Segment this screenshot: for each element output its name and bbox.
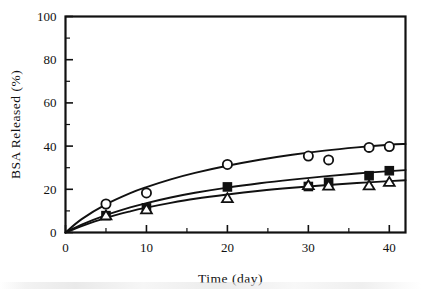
y-tick-label: 0 [50, 225, 57, 240]
chart-figure: 010203040020406080100Time (day)BSA Relea… [0, 0, 421, 289]
marker-open-circle [101, 199, 110, 208]
marker-open-circle [364, 143, 373, 152]
y-tick-label: 80 [44, 52, 57, 67]
x-tick-label: 20 [221, 240, 234, 255]
x-tick-label: 10 [140, 240, 153, 255]
y-tick-label: 100 [37, 9, 57, 24]
y-tick-label: 20 [44, 182, 57, 197]
x-tick-label: 30 [302, 240, 315, 255]
marker-open-circle [304, 151, 313, 160]
fit-curve-filled-square [66, 170, 406, 232]
y-tick-label: 60 [44, 95, 57, 110]
fit-curve-open-triangle [66, 180, 406, 232]
marker-open-circle [223, 160, 232, 169]
y-axis-title: BSA Released (%) [8, 70, 23, 179]
y-tick-label: 40 [44, 139, 57, 154]
x-tick-label: 0 [62, 240, 69, 255]
fit-curve-open-circle [66, 144, 406, 233]
x-tick-label: 40 [383, 240, 396, 255]
marker-filled-square [385, 167, 393, 175]
marker-filled-square [223, 183, 231, 191]
scan-artifact [0, 282, 421, 289]
marker-filled-square [365, 172, 373, 180]
marker-open-circle [324, 155, 333, 164]
bsa-release-scatter-chart: 010203040020406080100Time (day)BSA Relea… [0, 0, 421, 289]
marker-open-circle [142, 188, 151, 197]
marker-open-circle [385, 142, 394, 151]
